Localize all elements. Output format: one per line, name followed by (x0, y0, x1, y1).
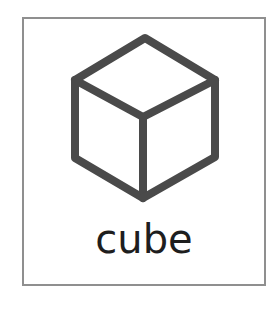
word-label: cube (22, 214, 266, 264)
